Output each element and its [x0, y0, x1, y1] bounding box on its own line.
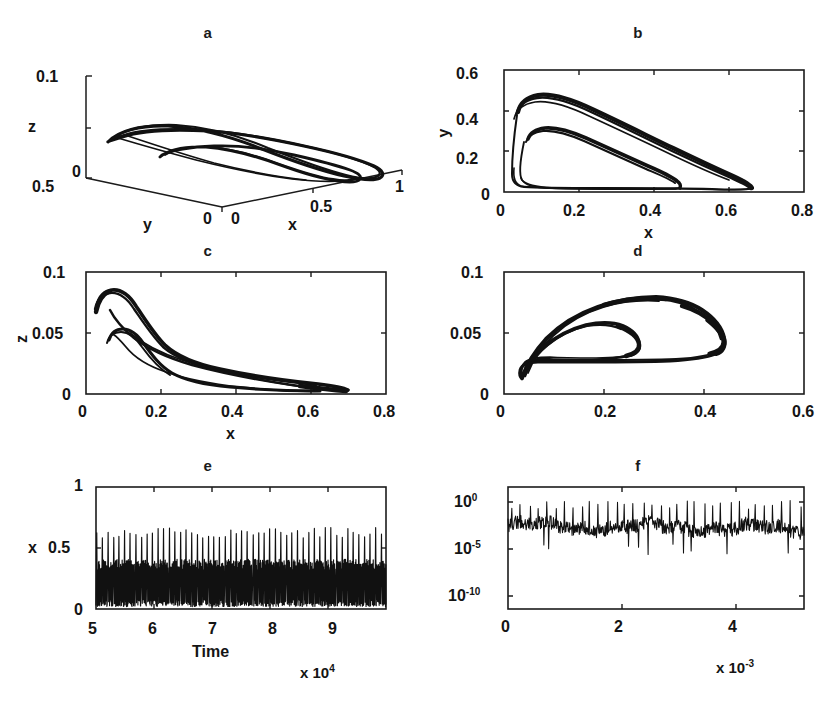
panel-a-plot [0, 18, 418, 250]
panel-f-frame [508, 487, 804, 609]
panel-b: b 0.6 0.4 0.2 0 y 0 0.2 0.4 0.6 0.8 x [418, 18, 834, 250]
panel-d-frame [504, 272, 804, 394]
panel-d-inner-upper [524, 323, 639, 374]
panel-b-inner-upper [528, 128, 680, 188]
figure-canvas: a 0.1 0 z 0.5 0 y 0 0.5 1 x [0, 0, 834, 702]
panel-d-outer-nose [708, 320, 724, 354]
panel-c-plot [0, 240, 418, 455]
panel-b-outer-upper [518, 95, 752, 188]
panel-e: e 1 0.5 0 x 5 6 7 8 9 Time x 104 [0, 455, 418, 702]
panel-c-left-tip [96, 291, 110, 312]
panel-d-inner-nose [618, 326, 639, 356]
panel-d-plot [418, 240, 834, 455]
panel-a-connecting-strand-2 [128, 136, 306, 180]
panel-a: a 0.1 0 z 0.5 0 y 0 0.5 1 x [0, 18, 418, 250]
panel-b-outer-upper-3 [514, 102, 729, 180]
panel-c-outer-upper-2 [95, 293, 316, 385]
panel-f: f 100 10-5 10-10 0 2 4 x 10-3 [418, 455, 834, 702]
panel-b-plot [418, 18, 834, 250]
panel-c: c 0.1 0.05 0 z 0 0.2 0.4 0.6 0.8 x [0, 240, 418, 455]
panel-f-plot [418, 455, 834, 702]
panel-a-y-axis [86, 178, 222, 207]
panel-e-timeseries [96, 527, 386, 606]
panel-e-plot [0, 455, 418, 702]
panel-f-spectrum [508, 501, 804, 555]
panel-d: d 0.1 0.05 0 0 0.2 0.4 0.6 [418, 240, 834, 455]
